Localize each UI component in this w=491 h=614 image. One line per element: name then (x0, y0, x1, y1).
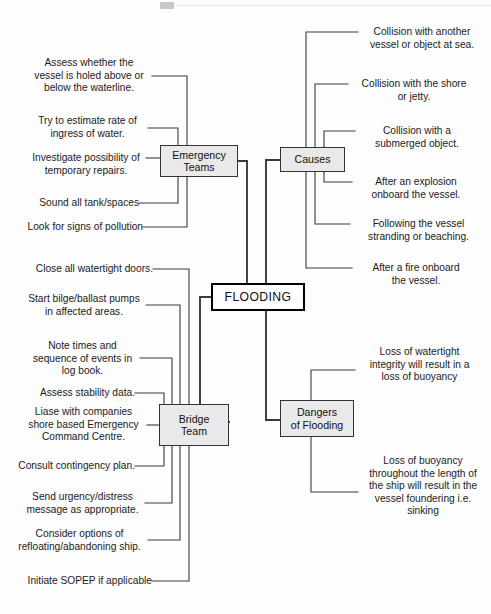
leaf-ca-4: After an explosion onboard the vessel. (352, 176, 480, 201)
leaf-bt-2: Start bilge/ballast pumps in affected ar… (22, 293, 146, 318)
leaf-bt-5: Liase with companies shore based Emergen… (20, 406, 147, 444)
leaf-ca-5: Following the vessel stranding or beachi… (350, 218, 487, 243)
node-dangers-of-flooding-label: Dangers of Flooding (291, 406, 343, 431)
scan-artifact-line (176, 5, 491, 6)
leaf-ca-2: Collision with the shore or jetty. (348, 78, 480, 103)
leaf-bt-4: Assess stability data. (22, 387, 135, 400)
node-dangers-of-flooding[interactable]: Dangers of Flooding (280, 400, 354, 437)
node-emergency-teams[interactable]: Emergency Teams (160, 145, 238, 177)
leaf-bt-6: Consult contingency plan. (12, 460, 135, 473)
leaf-bt-8: Consider options of refloating/abandonin… (11, 528, 148, 553)
leaf-df-1: Loss of watertight integrity will result… (355, 346, 484, 384)
leaf-ca-1: Collision with another vessel or object … (358, 26, 486, 51)
leaf-bt-1: Close all watertight doors. (20, 263, 153, 276)
node-bridge-team[interactable]: Bridge Team (159, 404, 229, 446)
leaf-et-4: Sound all tank/spaces (20, 197, 139, 210)
leaf-df-2: Loss of buoyancy throughout the length o… (358, 455, 488, 518)
leaf-bt-9: Initiate SOPEP if applicable (16, 575, 152, 588)
node-causes-label: Causes (295, 153, 331, 165)
leaf-ca-6: After a fire onboard the vessel. (352, 262, 480, 287)
leaf-bt-3: Note times and sequence of events in log… (25, 340, 140, 378)
node-flooding[interactable]: FLOODING (211, 283, 305, 311)
leaf-bt-7: Send urgency/distress message as appropr… (20, 491, 145, 516)
node-emergency-teams-label: Emergency Teams (172, 149, 226, 174)
leaf-et-2: Try to estimate rate of ingress of water… (27, 115, 148, 140)
node-causes[interactable]: Causes (280, 147, 345, 172)
scan-artifact-mark (160, 2, 174, 9)
node-flooding-label: FLOODING (225, 291, 292, 303)
leaf-et-1: Assess whether the vessel is holed above… (26, 57, 152, 95)
leaf-et-5: Look for signs of pollution (16, 221, 143, 234)
leaf-ca-3: Collision with a submerged object. (355, 125, 479, 150)
mindmap-canvas: FLOODING Emergency Teams Causes Bridge T… (0, 0, 491, 614)
node-bridge-team-label: Bridge Team (179, 413, 210, 438)
leaf-et-3: Investigate possibility of temporary rep… (26, 152, 146, 177)
